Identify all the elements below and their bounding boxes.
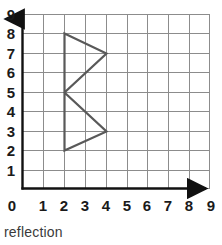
x-axis-tick-labels: 0 1 2 3 4 5 6 7 8 9 <box>8 197 215 214</box>
x-tick-0: 0 <box>8 197 16 214</box>
x-tick-7: 7 <box>164 197 172 214</box>
x-tick-5: 5 <box>123 197 131 214</box>
x-tick-9: 9 <box>207 197 215 214</box>
graph-figure: 9 8 7 6 5 4 3 2 1 0 1 2 3 4 5 6 7 8 9 re… <box>0 0 222 245</box>
axis-lines <box>21 19 206 190</box>
x-tick-6: 6 <box>143 197 151 214</box>
y-tick-5: 5 <box>7 84 15 101</box>
x-tick-8: 8 <box>185 197 193 214</box>
y-tick-8: 8 <box>7 25 15 42</box>
x-tick-4: 4 <box>102 197 111 214</box>
x-tick-1: 1 <box>39 197 47 214</box>
y-axis-tick-labels: 9 8 7 6 5 4 3 2 1 <box>7 6 16 179</box>
y-tick-9: 9 <box>7 6 15 23</box>
y-tick-4: 4 <box>7 103 16 120</box>
grid-vertical-lines <box>23 15 210 189</box>
y-tick-7: 7 <box>7 45 15 62</box>
y-tick-6: 6 <box>7 64 15 81</box>
coordinate-grid-plot: 9 8 7 6 5 4 3 2 1 0 1 2 3 4 5 6 7 8 9 <box>0 0 222 245</box>
x-tick-3: 3 <box>81 197 89 214</box>
x-tick-2: 2 <box>60 197 68 214</box>
y-tick-1: 1 <box>7 162 15 179</box>
y-tick-3: 3 <box>7 123 15 140</box>
y-tick-2: 2 <box>7 142 15 159</box>
figure-caption: reflection <box>4 224 63 240</box>
grid-horizontal-lines <box>23 15 210 189</box>
